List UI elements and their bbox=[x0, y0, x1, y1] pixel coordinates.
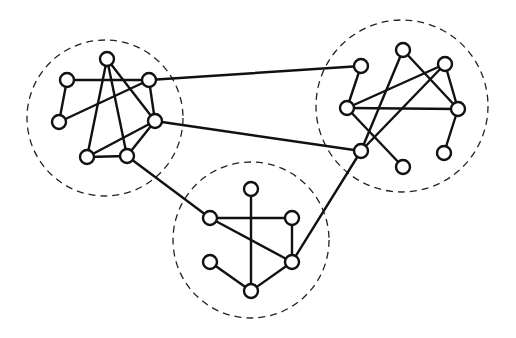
graph-nodes bbox=[52, 43, 465, 298]
node-R4 bbox=[340, 101, 354, 115]
node-B1 bbox=[244, 182, 258, 196]
node-L6 bbox=[80, 150, 94, 164]
node-B6 bbox=[244, 284, 258, 298]
clustered-graph-diagram bbox=[0, 0, 516, 338]
node-R7 bbox=[396, 160, 410, 174]
edge-B5-R6 bbox=[292, 151, 361, 262]
node-R3 bbox=[438, 57, 452, 71]
node-L3 bbox=[142, 73, 156, 87]
node-R6 bbox=[354, 144, 368, 158]
edge-L3-R1 bbox=[149, 66, 361, 80]
node-L2 bbox=[60, 73, 74, 87]
node-B5 bbox=[285, 255, 299, 269]
node-L4 bbox=[52, 115, 66, 129]
node-B2 bbox=[203, 211, 217, 225]
edge-L7-B2 bbox=[127, 156, 210, 218]
cluster-boundaries bbox=[27, 20, 488, 318]
edge-L5-R6 bbox=[155, 121, 361, 151]
edge-L4-L3 bbox=[59, 80, 149, 122]
node-L7 bbox=[120, 149, 134, 163]
node-L5 bbox=[148, 114, 162, 128]
node-R1 bbox=[354, 59, 368, 73]
node-B3 bbox=[285, 211, 299, 225]
node-B4 bbox=[203, 255, 217, 269]
node-L1 bbox=[100, 52, 114, 66]
node-R2 bbox=[396, 43, 410, 57]
node-R8 bbox=[437, 146, 451, 160]
node-R5 bbox=[451, 102, 465, 116]
